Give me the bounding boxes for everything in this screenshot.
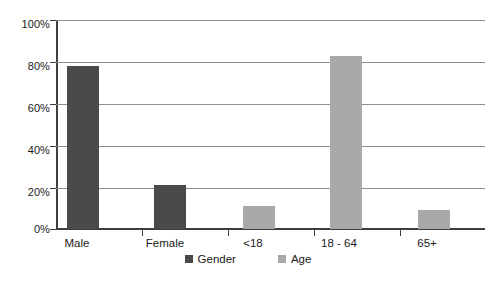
y-axis-label-100: 100% [4, 19, 50, 30]
y-axis-label-40: 40% [4, 145, 50, 156]
bar-chart: 100% 80% 60% 40% 20% 0% Male Female <18 … [0, 0, 496, 285]
legend-swatch-age-icon [278, 255, 286, 263]
legend-swatch-gender-icon [185, 255, 193, 263]
gridline-20 [56, 188, 485, 189]
bar-male [67, 66, 99, 229]
x-axis-label-65plus: 65+ [392, 237, 462, 249]
gridline-100 [56, 20, 485, 21]
y-axis-label-80: 80% [4, 61, 50, 72]
x-tick-1 [142, 230, 143, 236]
caption-cropped [0, 277, 496, 285]
y-axis-label-60: 60% [4, 103, 50, 114]
plot-area [56, 20, 485, 229]
y-axis-label-0: 0% [4, 224, 50, 235]
bar-female [154, 185, 186, 229]
x-axis-label-under18: <18 [218, 237, 288, 249]
legend-item-age: Age [278, 253, 311, 265]
legend-item-gender: Gender [185, 253, 236, 265]
legend-label-gender: Gender [198, 253, 236, 265]
gridline-60 [56, 104, 485, 105]
legend-label-age: Age [291, 253, 311, 265]
chart-legend: Gender Age [0, 253, 496, 265]
bar-65plus [418, 210, 450, 229]
x-axis-label-18-64: 18 - 64 [304, 237, 374, 249]
bar-18-64 [330, 56, 362, 229]
x-tick-3 [314, 230, 315, 236]
x-axis-label-male: Male [42, 237, 112, 249]
gridline-80 [56, 62, 485, 63]
gridline-40 [56, 146, 485, 147]
x-tick-2 [228, 230, 229, 236]
x-tick-4 [400, 230, 401, 236]
y-axis-label-20: 20% [4, 187, 50, 198]
bar-under18 [243, 206, 275, 229]
x-axis-label-female: Female [130, 237, 200, 249]
